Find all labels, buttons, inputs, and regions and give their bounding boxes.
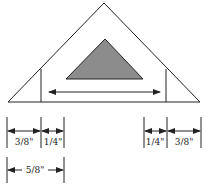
triangle-diagram: 3/8" 1/4" 5/8" 1/4" 3/8"	[0, 0, 210, 195]
inner-shaded-triangle	[66, 39, 143, 79]
dim-label-1-4-left: 1/4"	[44, 137, 63, 147]
dim-label-3-8-left: 3/8"	[15, 137, 34, 147]
dim-label-1-4-right: 1/4"	[146, 137, 165, 147]
dim-label-3-8-right: 3/8"	[175, 137, 194, 147]
dim-label-5-8: 5/8"	[26, 165, 45, 175]
